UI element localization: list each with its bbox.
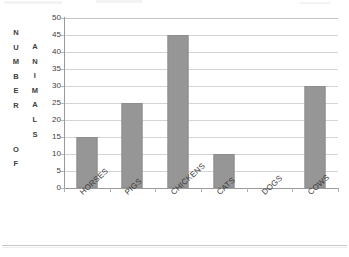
scan-artifact: [300, 2, 330, 4]
bar: [168, 35, 189, 188]
y-axis-tick-label: 40: [38, 48, 61, 56]
y-axis-tick-label: 10: [38, 150, 61, 158]
y-axis-title: NUMBER OF: [10, 26, 22, 172]
y-axis-title-letter: F: [10, 157, 22, 172]
y-axis-tick-label: 15: [38, 133, 61, 141]
y-axis-tick-label: 35: [38, 65, 61, 73]
y-axis-tick-label: 5: [38, 167, 61, 175]
scan-artifact: [96, 0, 142, 3]
y-axis-title-letter: N: [10, 26, 22, 41]
bar-slot: [247, 18, 293, 188]
y-axis-tick-label: 50: [38, 14, 61, 22]
y-axis-title-letter: [10, 114, 22, 129]
y-axis-tick-label: 30: [38, 82, 61, 90]
y-axis-title-letter: M: [10, 55, 22, 70]
chart-page: NUMBER OF ANIMALS 50454035302520151050 H…: [0, 0, 349, 257]
footer-divider-shadow: [2, 247, 347, 248]
y-axis-tick-label: 20: [38, 116, 61, 124]
bar: [305, 86, 326, 188]
bar-slot: [155, 18, 201, 188]
x-axis-category-labels: HORSESPIGSCHICKENSCATSDOGSCOWS: [64, 190, 338, 242]
y-axis-tick-label: 25: [38, 99, 61, 107]
bar-slot: [64, 18, 110, 188]
scan-artifact: [4, 1, 62, 4]
bar-slot: [292, 18, 338, 188]
y-axis-tick-label: 45: [38, 31, 61, 39]
y-axis-title-letter: O: [10, 143, 22, 158]
bar: [122, 103, 143, 188]
bar-slot: [110, 18, 156, 188]
y-axis-title-letter: [10, 128, 22, 143]
y-axis-title-letter: R: [10, 99, 22, 114]
y-axis-title-letter: U: [10, 41, 22, 56]
footer-divider: [2, 245, 347, 246]
y-axis-title-letter: E: [10, 84, 22, 99]
bar-slot: [201, 18, 247, 188]
y-axis-tick-labels: 50454035302520151050: [38, 12, 61, 196]
x-axis-tick: [338, 188, 339, 192]
y-axis-title-letter: B: [10, 70, 22, 85]
y-axis-tick-label: 0: [38, 184, 61, 192]
